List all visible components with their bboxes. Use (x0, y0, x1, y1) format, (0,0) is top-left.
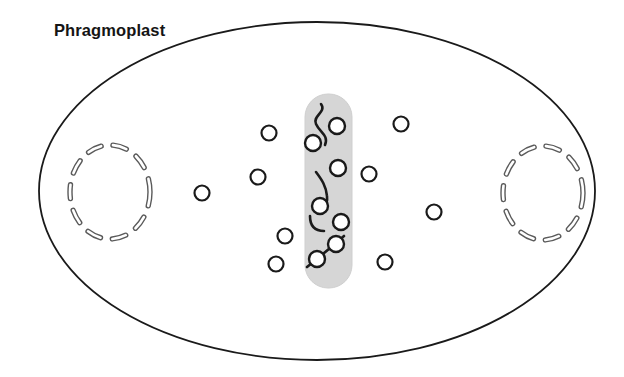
vesicle (362, 167, 377, 182)
vesicle (195, 186, 210, 201)
vesicle (269, 257, 284, 272)
vesicle (329, 118, 345, 134)
vesicle (328, 236, 344, 252)
vesicle (305, 135, 321, 151)
vesicle (394, 117, 409, 132)
vesicle (251, 170, 266, 185)
figure-title-label: Phragmoplast (54, 22, 165, 39)
vesicle (330, 160, 346, 176)
vesicle (309, 251, 325, 267)
vesicle (427, 205, 442, 220)
vesicle (333, 214, 349, 230)
phragmoplast-diagram (0, 0, 624, 377)
figure-canvas: Phragmoplast (0, 0, 624, 377)
vesicle (312, 198, 328, 214)
vesicle (262, 126, 277, 141)
vesicle (378, 255, 393, 270)
vesicle (278, 229, 293, 244)
